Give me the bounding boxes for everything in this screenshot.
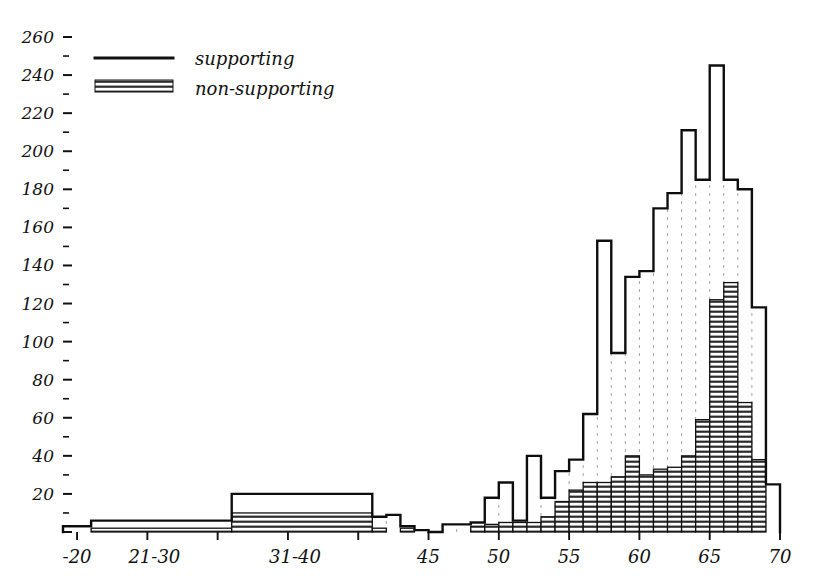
legend-label-non-supporting: non-supporting xyxy=(195,78,335,99)
axis-tick-label: 80 xyxy=(32,370,54,390)
hatched-swatch xyxy=(95,80,173,92)
non-supporting-bar xyxy=(400,528,414,532)
axis-tick-label: 240 xyxy=(21,65,55,85)
non-supporting-bars xyxy=(91,283,766,532)
non-supporting-bar xyxy=(91,528,232,532)
non-supporting-bar xyxy=(724,283,738,532)
x-axis-tick-label: 21-30 xyxy=(127,546,180,567)
non-supporting-bar xyxy=(527,522,541,532)
axis-tick-label: 260 xyxy=(21,27,55,47)
x-axis-tick-label: 60 xyxy=(628,546,651,567)
non-supporting-bar xyxy=(232,513,373,532)
x-axis-tick-label: 50 xyxy=(487,546,510,567)
x-axis: -2021-3031-40455055606570 xyxy=(63,532,792,567)
chart-canvas: 20406080100120140160180200220240260 -202… xyxy=(0,0,818,576)
x-axis-tick-label: 70 xyxy=(769,546,792,567)
non-supporting-bar xyxy=(611,477,625,532)
axis-tick-label: 100 xyxy=(22,332,55,352)
non-supporting-bar xyxy=(372,528,386,532)
histogram-figure: 20406080100120140160180200220240260 -202… xyxy=(0,0,818,576)
non-supporting-bar xyxy=(710,300,724,532)
supporting-step-outline xyxy=(63,66,780,532)
y-axis: 20406080100120140160180200220240260 xyxy=(21,27,72,532)
non-supporting-bar xyxy=(569,490,583,532)
non-supporting-bar xyxy=(752,460,766,532)
non-supporting-bar xyxy=(471,526,485,532)
axis-tick-label: 60 xyxy=(32,408,54,428)
non-supporting-bar xyxy=(555,502,569,532)
non-supporting-bar xyxy=(738,403,752,532)
axis-tick-label: 180 xyxy=(22,179,55,199)
x-axis-tick-label: 55 xyxy=(558,546,581,567)
non-supporting-bar xyxy=(513,522,527,532)
non-supporting-bar xyxy=(485,524,499,532)
non-supporting-bar xyxy=(668,467,682,532)
axis-tick-label: 200 xyxy=(21,141,55,161)
non-supporting-bar xyxy=(653,469,667,532)
non-supporting-bar xyxy=(499,522,513,532)
x-axis-tick-label: 45 xyxy=(416,546,440,567)
bar-separators xyxy=(63,66,766,532)
non-supporting-bar xyxy=(541,517,555,532)
non-supporting-bar xyxy=(639,475,653,532)
non-supporting-bar xyxy=(597,483,611,533)
supporting-outline xyxy=(63,66,780,532)
x-axis-tick-label: 65 xyxy=(698,546,721,567)
axis-tick-label: 220 xyxy=(21,103,55,123)
axis-tick-label: 40 xyxy=(31,446,54,466)
non-supporting-bar xyxy=(625,456,639,532)
axis-tick-label: 140 xyxy=(22,255,55,275)
x-axis-tick-label: -20 xyxy=(63,546,92,567)
non-supporting-bar xyxy=(583,483,597,533)
non-supporting-bar xyxy=(696,420,710,532)
axis-tick-label: 160 xyxy=(22,217,55,237)
non-supporting-bar xyxy=(682,456,696,532)
x-axis-tick-label: 31-40 xyxy=(269,546,321,567)
chart-legend: supportingnon-supporting xyxy=(95,48,335,99)
axis-tick-label: 120 xyxy=(22,294,55,314)
legend-label-supporting: supporting xyxy=(195,48,294,69)
axis-tick-label: 20 xyxy=(31,484,54,504)
